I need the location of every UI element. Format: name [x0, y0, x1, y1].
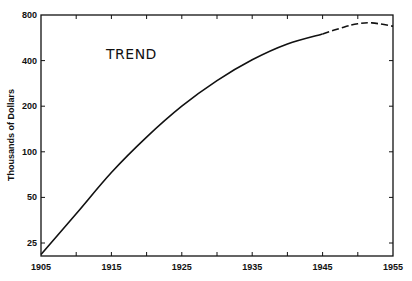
x-tick-label: 1905: [31, 262, 51, 272]
plot-border: [41, 15, 393, 256]
y-tick-label: 800: [22, 10, 37, 20]
trend-line-projected: [323, 23, 393, 34]
x-tick-label: 1915: [101, 262, 121, 272]
y-tick-label: 100: [22, 147, 37, 157]
y-axis-ticks: [41, 61, 393, 243]
x-axis-tick-labels: 190519151925193519451955: [31, 262, 403, 272]
x-tick-label: 1925: [172, 262, 192, 272]
chart-title-annotation: TREND: [105, 46, 157, 62]
y-tick-label: 50: [27, 192, 37, 202]
trend-chart: 190519151925193519451955 255010020040080…: [0, 0, 412, 281]
x-tick-label: 1955: [383, 262, 403, 272]
x-tick-label: 1935: [242, 262, 262, 272]
trend-line: [41, 34, 323, 255]
trend-lines: [41, 23, 393, 255]
y-tick-label: 25: [27, 238, 37, 248]
plot-frame: [41, 15, 393, 256]
y-tick-label: 400: [22, 56, 37, 66]
x-tick-label: 1945: [313, 262, 333, 272]
y-tick-label: 200: [22, 101, 37, 111]
y-axis-tick-labels: 2550100200400800: [22, 10, 37, 248]
y-axis-title: Thousands of Dollars: [6, 89, 16, 181]
